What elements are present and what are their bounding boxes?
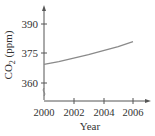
- y-axis-label: CO2 (ppm): [2, 30, 17, 79]
- co2-line-chart: 390 375 360 2000 2002 2004 2006 Year CO2…: [0, 0, 155, 136]
- x-axis-label: Year: [80, 120, 101, 132]
- y-tick-label: 375: [22, 47, 39, 59]
- x-tick-label: 2002: [64, 107, 85, 118]
- y-tick-label: 390: [22, 18, 39, 30]
- x-tick-label: 2004: [94, 107, 116, 118]
- x-tick-label: 2006: [123, 107, 144, 118]
- y-tick-label: 360: [22, 77, 39, 89]
- x-tick-label: 2000: [34, 107, 55, 118]
- y-axis-arrow-icon: [42, 5, 46, 11]
- x-axis-arrow-icon: [145, 99, 151, 103]
- co2-series-line: [44, 42, 133, 65]
